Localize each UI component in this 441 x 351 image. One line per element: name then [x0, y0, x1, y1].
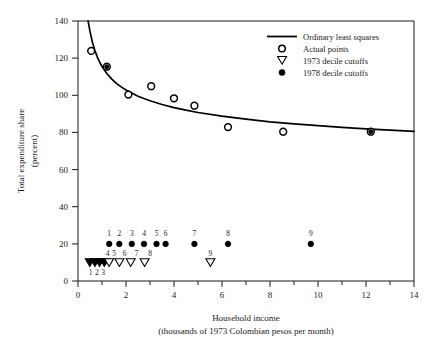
y-axis-title-main: Total expenditure share: [16, 109, 26, 193]
chart-figure: 0 20 40 60 80 100 120 140: [0, 0, 441, 351]
y-tick-label: 140: [55, 16, 69, 26]
x-tick-label: 8: [268, 290, 273, 300]
decile-1973-label: 8: [148, 249, 152, 258]
decile-1973-triangle: [115, 259, 124, 267]
y-axis-ticks: [72, 21, 78, 281]
legend-open-circle-icon: [279, 45, 286, 52]
y-axis-title: Total expenditure share (percent): [16, 109, 39, 193]
decile-1973-label: 4: [106, 249, 110, 258]
decile-1978-dot: [106, 241, 112, 247]
decile-1978-label: 1: [107, 229, 111, 238]
decile-1973-series: [85, 259, 215, 267]
x-axis-title-main: Household income: [212, 313, 280, 323]
decile-1978-label: 9: [309, 229, 313, 238]
x-tick-label: 4: [172, 290, 177, 300]
decile-1978-dot: [308, 241, 314, 247]
decile-1978-label: 8: [226, 229, 230, 238]
y-tick-label: 20: [59, 239, 69, 249]
actual-point: [125, 91, 132, 98]
decile-1978-label: 3: [130, 229, 134, 238]
actual-point: [280, 128, 287, 135]
x-axis-tick-labels: 0 2 4 6 8 10 12 14: [76, 290, 419, 300]
decile-1973-labels-above: 4 5 6 7 8 9: [106, 249, 213, 258]
actual-point: [191, 102, 198, 109]
decile-1973-label: 2: [95, 268, 99, 277]
decile-1978-label: 5: [155, 229, 159, 238]
decile-1973-triangle: [206, 259, 215, 267]
legend-label-ols: Ordinary least squares: [303, 32, 379, 42]
decile-1973-label: 1: [89, 268, 93, 277]
decile-1973-triangle: [126, 259, 135, 267]
actual-point: [171, 95, 178, 102]
legend-triangle-icon: [278, 57, 287, 65]
x-tick-label: 0: [76, 290, 81, 300]
legend-label-1978: 1978 decile cutoffs: [303, 68, 368, 78]
decile-1978-dot: [192, 241, 198, 247]
decile-1978-dot: [141, 241, 147, 247]
decile-1973-triangle: [140, 259, 149, 267]
x-tick-label: 14: [410, 290, 420, 300]
decile-1973-labels-below: 1 2 3: [89, 268, 106, 277]
x-tick-label: 10: [314, 290, 324, 300]
decile-1978-labels: 1 2 3 4 5 6 7 8 9: [107, 229, 313, 238]
x-tick-label: 2: [124, 290, 129, 300]
actual-point: [88, 48, 95, 55]
decile-1978-dot: [163, 241, 169, 247]
overlap-dot: [105, 65, 109, 69]
decile-1973-label: 6: [123, 249, 127, 258]
decile-1973-label: 7: [135, 249, 139, 258]
x-tick-label: 6: [220, 290, 225, 300]
overlap-dot: [369, 130, 373, 134]
x-axis-title-sub: (thousands of 1973 Colombian pesos per m…: [158, 326, 333, 336]
decile-1978-dot: [117, 241, 123, 247]
legend-label-1973: 1973 decile cutoffs: [303, 56, 368, 66]
legend-filled-circle-icon: [279, 70, 285, 76]
decile-1978-label: 2: [117, 229, 121, 238]
chart-canvas: 0 20 40 60 80 100 120 140: [0, 0, 441, 351]
y-tick-label: 100: [55, 90, 69, 100]
decile-1978-label: 6: [164, 229, 168, 238]
legend-label-actual: Actual points: [303, 44, 349, 54]
decile-1973-label: 9: [209, 249, 213, 258]
y-tick-label: 60: [59, 165, 69, 175]
decile-1978-label: 7: [193, 229, 197, 238]
y-tick-label: 80: [59, 127, 69, 137]
decile-1978-label: 4: [142, 229, 146, 238]
y-tick-label: 120: [55, 53, 69, 63]
x-tick-label: 12: [362, 290, 371, 300]
y-tick-label: 0: [64, 276, 69, 286]
actual-point: [148, 83, 155, 90]
decile-1978-dot: [154, 241, 160, 247]
x-axis-minor-ticks: [102, 281, 390, 285]
decile-1978-dot: [129, 241, 135, 247]
decile-1978-dot: [225, 241, 231, 247]
y-axis-tick-labels: 0 20 40 60 80 100 120 140: [55, 16, 69, 286]
decile-1978-series: [106, 241, 313, 247]
decile-1973-label: 5: [112, 249, 116, 258]
decile-1973-label: 3: [101, 268, 105, 277]
y-axis-title-sub: (percent): [29, 135, 39, 167]
chart-legend: Ordinary least squares Actual points 197…: [267, 32, 379, 78]
x-axis-title: Household income (thousands of 1973 Colo…: [158, 313, 333, 336]
actual-point: [225, 124, 232, 131]
y-tick-label: 40: [59, 202, 69, 212]
